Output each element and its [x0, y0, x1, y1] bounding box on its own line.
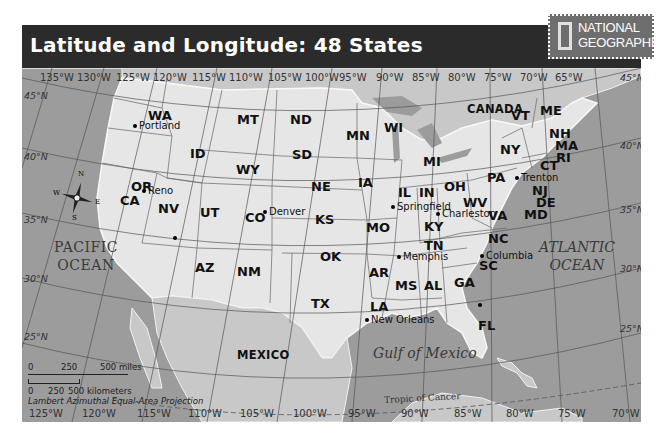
- state-label-ct: CT: [540, 158, 558, 173]
- compass-e: E: [95, 198, 100, 206]
- state-label-ga: GA: [454, 275, 475, 290]
- state-label-ny: NY: [500, 142, 520, 157]
- scale-bar-km: [28, 379, 80, 384]
- city-dot: [173, 232, 179, 243]
- state-label-sd: SD: [292, 147, 312, 162]
- scale-miles-0: 0: [28, 362, 33, 372]
- state-label-ca: CA: [120, 193, 140, 208]
- country-label-canada: CANADA: [467, 102, 523, 116]
- pacific-ocean-label: PACIFIC OCEAN: [46, 238, 126, 274]
- country-label-mexico: MEXICO: [237, 348, 289, 362]
- compass-rose-icon: N S E W: [57, 176, 97, 216]
- city-label-charleston: Charleston: [436, 208, 496, 219]
- lon-label-top: 95°W: [339, 72, 367, 83]
- state-label-ms: MS: [395, 278, 417, 293]
- state-label-la: LA: [370, 299, 388, 314]
- state-label-az: AZ: [195, 260, 215, 275]
- city-label-trenton: Trenton: [515, 172, 558, 183]
- scale-miles-500: 500 miles: [100, 362, 142, 372]
- lon-label-top: 135°W: [40, 72, 74, 83]
- scale-km-250: 250: [48, 386, 64, 396]
- lat-label-right: 45°N: [620, 72, 641, 83]
- city-dot: [478, 299, 484, 310]
- city-label-denver: Denver: [263, 206, 305, 217]
- lat-label-right: 25°N: [620, 323, 641, 334]
- lat-label-left: 25°N: [24, 331, 48, 342]
- lon-label-top: 70°W: [520, 72, 548, 83]
- lat-label-right: 35°N: [620, 204, 641, 215]
- city-label-reno: Reno: [142, 185, 173, 196]
- city-label-new-orleans: New Orleans: [365, 314, 435, 325]
- lon-label-top: 80°W: [448, 72, 476, 83]
- lon-label-bottom: 90°W: [401, 408, 429, 419]
- lat-label-right: 40°N: [620, 140, 641, 151]
- state-label-nc: NC: [488, 231, 508, 246]
- state-label-ia: IA: [358, 175, 373, 190]
- lon-label-bottom: 120°W: [82, 408, 116, 419]
- state-label-nv: NV: [158, 201, 179, 216]
- lon-label-top: 110°W: [229, 72, 263, 83]
- state-label-pa: PA: [487, 170, 505, 185]
- lat-label-left: 35°N: [24, 214, 48, 225]
- scale-miles-250: 250: [61, 362, 77, 372]
- state-label-tx: TX: [311, 296, 330, 311]
- lon-label-bottom: 105°W: [240, 408, 274, 419]
- logo-line-2: GEOGRAPHIC: [578, 35, 663, 50]
- lon-label-bottom: 115°W: [137, 408, 171, 419]
- projection-label: Lambert Azimuthal Equal-Area Projection: [28, 396, 203, 406]
- lon-label-bottom: 80°W: [506, 408, 534, 419]
- state-label-me: ME: [540, 103, 562, 118]
- lon-label-bottom: 95°W: [348, 408, 376, 419]
- lon-label-top: 125°W: [116, 72, 150, 83]
- state-label-al: AL: [424, 278, 442, 293]
- state-label-ok: OK: [320, 249, 341, 264]
- compass-w: W: [53, 189, 60, 197]
- compass-s: S: [72, 214, 77, 222]
- state-label-fl: FL: [478, 318, 495, 333]
- lon-label-top: 90°W: [376, 72, 404, 83]
- state-label-md: MD: [524, 207, 548, 222]
- lat-label-left: 45°N: [24, 90, 48, 101]
- scale-km-0: 0: [28, 386, 33, 396]
- lon-label-top: 105°W: [268, 72, 302, 83]
- yellow-border-icon: [558, 22, 572, 50]
- state-label-wy: WY: [236, 162, 260, 177]
- lon-label-top: 75°W: [484, 72, 512, 83]
- lon-label-bottom: 75°W: [558, 408, 586, 419]
- state-label-mn: MN: [346, 128, 370, 143]
- state-label-ar: AR: [369, 265, 389, 280]
- lon-label-bottom: 110°W: [188, 408, 222, 419]
- lon-label-top: 85°W: [412, 72, 440, 83]
- state-label-wi: WI: [384, 120, 403, 135]
- lat-label-left: 40°N: [24, 151, 48, 162]
- city-label-memphis: Memphis: [397, 251, 448, 262]
- state-label-ky: KY: [424, 219, 444, 234]
- lon-label-bottom: 125°W: [29, 408, 63, 419]
- state-label-mi: MI: [423, 154, 441, 169]
- lon-label-top: 115°W: [192, 72, 226, 83]
- state-label-oh: OH: [444, 179, 466, 194]
- us-map: 135°W 130°W 125°W 120°W 115°W 110°W 105°…: [22, 68, 641, 422]
- gulf-of-mexico-label: Gulf of Mexico: [373, 344, 477, 362]
- compass-n: N: [78, 170, 84, 178]
- state-label-ks: KS: [315, 212, 334, 227]
- logo-line-1: NATIONAL: [578, 20, 663, 35]
- state-label-nd: ND: [290, 112, 312, 127]
- state-label-in: IN: [419, 185, 435, 200]
- state-label-mo: MO: [366, 220, 390, 235]
- state-label-id: ID: [190, 146, 206, 161]
- city-label-portland: Portland: [133, 120, 180, 131]
- state-label-mt: MT: [237, 112, 259, 127]
- lon-label-top: 130°W: [77, 72, 111, 83]
- state-label-nm: NM: [237, 264, 261, 279]
- map-title: Latitude and Longitude: 48 States: [30, 33, 423, 57]
- lat-label-left: 30°N: [24, 273, 48, 284]
- state-label-ne: NE: [311, 179, 331, 194]
- lat-label-right: 30°N: [620, 263, 641, 274]
- scale-km-500: 500 kilometers: [68, 386, 132, 396]
- national-geographic-logo: NATIONAL GEOGRAPHIC: [548, 14, 654, 59]
- state-label-ut: UT: [200, 205, 219, 220]
- lon-label-bottom: 85°W: [454, 408, 482, 419]
- lon-label-top: 120°W: [153, 72, 187, 83]
- atlantic-ocean-label: ATLANTIC OCEAN: [532, 238, 622, 274]
